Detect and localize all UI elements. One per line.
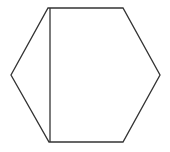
hexagon-diagram xyxy=(0,0,170,152)
background xyxy=(0,0,170,152)
